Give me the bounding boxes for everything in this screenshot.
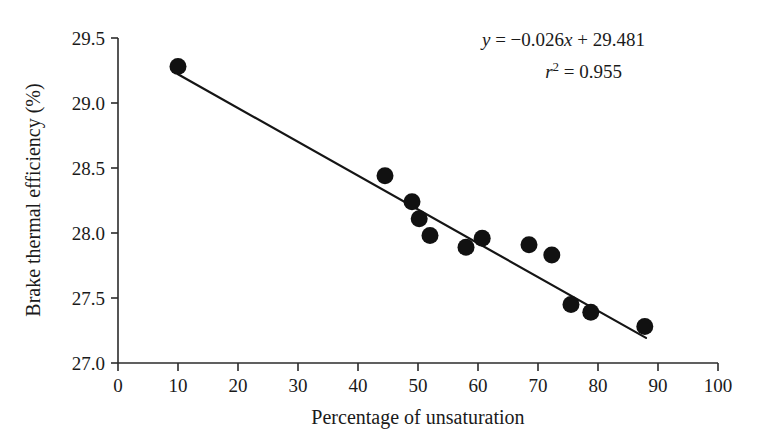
y-axis-title: Brake thermal efficiency (%) <box>22 83 45 316</box>
y-tick-label: 29.0 <box>72 93 105 114</box>
x-tick-label: 20 <box>229 375 248 396</box>
data-point <box>458 239 475 256</box>
r-squared-annotation: r2 = 0.955 <box>545 59 622 83</box>
scatter-plot: 29.5 29.0 28.5 28.0 27.5 27.0 0 10 20 <box>0 0 765 440</box>
data-point <box>411 210 428 227</box>
x-tick-label: 80 <box>589 375 608 396</box>
x-axis-ticks <box>118 363 718 371</box>
x-axis-title: Percentage of unsaturation <box>311 406 524 429</box>
regression-equation-annotation: y = −0.026x + 29.481 <box>480 29 645 50</box>
equation-body: = −0.026 <box>490 29 564 50</box>
y-tick-label: 27.0 <box>72 353 105 374</box>
y-tick-label: 28.0 <box>72 223 105 244</box>
y-tick-label: 29.5 <box>72 28 105 49</box>
equation-tail: + 29.481 <box>573 29 645 50</box>
r-value: = 0.955 <box>559 61 622 82</box>
y-tick-label: 27.5 <box>72 288 105 309</box>
data-point <box>404 193 421 210</box>
data-point <box>563 296 580 313</box>
x-tick-label: 40 <box>349 375 368 396</box>
data-point <box>636 318 653 335</box>
data-point <box>474 230 491 247</box>
x-tick-label: 30 <box>289 375 308 396</box>
data-point <box>582 304 599 321</box>
data-point <box>170 58 187 75</box>
data-point <box>521 236 538 253</box>
x-tick-label: 0 <box>113 375 123 396</box>
x-tick-label: 70 <box>529 375 548 396</box>
data-point <box>543 247 560 264</box>
chart-figure: 29.5 29.0 28.5 28.0 27.5 27.0 0 10 20 <box>0 0 765 440</box>
x-tick-label: 10 <box>169 375 188 396</box>
y-tick-label: 28.5 <box>72 158 105 179</box>
y-axis-tick-labels: 29.5 29.0 28.5 28.0 27.5 27.0 <box>72 28 105 374</box>
y-axis-ticks <box>111 38 118 363</box>
data-point-group <box>170 58 654 335</box>
equation-y-symbol: y <box>480 29 491 50</box>
x-tick-label: 90 <box>649 375 668 396</box>
x-tick-label: 50 <box>409 375 428 396</box>
x-tick-label: 60 <box>469 375 488 396</box>
data-point <box>377 167 394 184</box>
data-point <box>422 227 439 244</box>
x-tick-label: 100 <box>704 375 733 396</box>
x-axis-tick-labels: 0 10 20 30 40 50 60 70 80 90 100 <box>113 375 732 396</box>
